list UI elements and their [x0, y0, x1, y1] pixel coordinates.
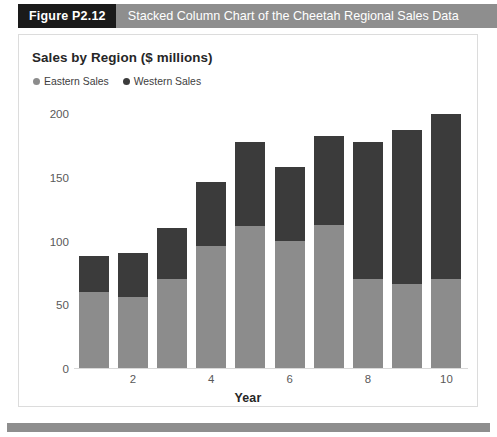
bar-segment-western-sales[interactable]: [79, 256, 109, 292]
x-tick-label: 8: [348, 373, 388, 385]
x-axis-title: Year: [19, 391, 477, 405]
bar-segment-eastern-sales[interactable]: [314, 225, 344, 368]
bar-segment-eastern-sales[interactable]: [157, 279, 187, 368]
bar-column[interactable]: [392, 130, 422, 368]
bar-segment-eastern-sales[interactable]: [275, 241, 305, 369]
bar-column[interactable]: [157, 228, 187, 368]
chart-title: Sales by Region ($ millions): [32, 50, 213, 65]
bar-column[interactable]: [118, 253, 148, 368]
x-tick-label: 4: [191, 373, 231, 385]
bar-column[interactable]: [314, 136, 344, 368]
bar-segment-western-sales[interactable]: [353, 142, 383, 278]
y-tick-label: 50: [31, 298, 69, 311]
bar-segment-eastern-sales[interactable]: [392, 284, 422, 368]
bar-column[interactable]: [431, 114, 461, 368]
bar-segment-western-sales[interactable]: [314, 136, 344, 225]
bar-segment-eastern-sales[interactable]: [79, 292, 109, 369]
bar-segment-eastern-sales[interactable]: [431, 279, 461, 368]
bar-segment-western-sales[interactable]: [157, 228, 187, 279]
x-tick-label: 10: [426, 373, 466, 385]
bar-segment-eastern-sales[interactable]: [118, 297, 148, 368]
legend-swatch-icon: [33, 78, 40, 85]
bar-column[interactable]: [79, 256, 109, 368]
legend-label: Eastern Sales: [44, 76, 109, 87]
bar-column[interactable]: [353, 142, 383, 368]
y-tick-label: 0: [31, 362, 69, 375]
bar-segment-eastern-sales[interactable]: [353, 279, 383, 368]
bar-segment-western-sales[interactable]: [118, 253, 148, 296]
legend-label: Western Sales: [134, 76, 201, 87]
bar-segment-western-sales[interactable]: [392, 130, 422, 284]
legend-item-western-sales[interactable]: Western Sales: [123, 76, 201, 87]
y-tick-label: 150: [31, 170, 69, 183]
bar-segment-eastern-sales[interactable]: [235, 226, 265, 368]
bar-segment-western-sales[interactable]: [235, 142, 265, 226]
bar-column[interactable]: [275, 167, 305, 368]
x-axis-line: [74, 368, 468, 369]
bar-segment-western-sales[interactable]: [275, 167, 305, 241]
bar-segment-western-sales[interactable]: [196, 182, 226, 246]
x-tick-label: 2: [113, 373, 153, 385]
bar-segment-eastern-sales[interactable]: [196, 246, 226, 368]
bar-column[interactable]: [235, 142, 265, 368]
chart-legend: Eastern Sales Western Sales: [33, 76, 201, 87]
x-tick-label: 6: [270, 373, 310, 385]
figure-number-label: Figure P2.12: [18, 4, 116, 28]
plot-area: [74, 113, 466, 368]
y-tick-label: 200: [31, 107, 69, 120]
y-tick-label: 100: [31, 234, 69, 247]
figure-header: Figure P2.12 Stacked Column Chart of the…: [18, 4, 497, 28]
chart-panel: Sales by Region ($ millions) Eastern Sal…: [18, 34, 478, 407]
bar-segment-western-sales[interactable]: [431, 114, 461, 278]
y-axis: 050100150200: [25, 113, 69, 368]
legend-item-eastern-sales[interactable]: Eastern Sales: [33, 76, 109, 87]
footer-band: [7, 423, 490, 432]
figure-caption-label: Stacked Column Chart of the Cheetah Regi…: [116, 4, 497, 28]
legend-swatch-icon: [123, 78, 130, 85]
bar-column[interactable]: [196, 182, 226, 368]
